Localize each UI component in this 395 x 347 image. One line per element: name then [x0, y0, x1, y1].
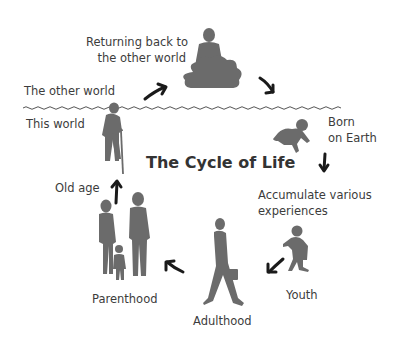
meditating-person-on-cloud-icon: [183, 28, 241, 88]
world-boundary-wave: [23, 107, 341, 110]
label-this-world: This world: [26, 116, 85, 132]
cycle-of-life-diagram: The other world This world Returning bac…: [0, 0, 395, 347]
walking-businessman-icon: [203, 218, 244, 306]
label-returning-line1: Returning back to: [86, 34, 186, 50]
walking-child-icon: [283, 226, 309, 273]
diagram-graphics: [0, 0, 395, 347]
elderly-with-cane-icon: [102, 103, 123, 175]
label-returning: Returning back to the other world: [86, 34, 186, 66]
label-born-line2: on Earth: [328, 130, 377, 146]
arrow-returning-to-born: [260, 78, 273, 93]
label-youth: Youth: [286, 287, 318, 303]
arrow-youth-to-adulthood: [268, 259, 283, 272]
label-returning-line2: the other world: [86, 50, 186, 66]
label-accumulate: Accumulate various experiences: [258, 187, 372, 219]
label-other-world: The other world: [24, 83, 115, 99]
arrow-born-to-accumulate: [320, 154, 328, 171]
label-accumulate-line2: experiences: [258, 203, 372, 219]
label-born-line1: Born: [328, 114, 377, 130]
arrow-parenthood-to-old-age: [112, 181, 121, 203]
label-old-age: Old age: [55, 180, 100, 196]
family-icon: [99, 192, 150, 280]
label-born: Born on Earth: [328, 114, 377, 146]
diagram-title: The Cycle of Life: [146, 153, 295, 172]
arrow-adulthood-to-parenthood: [166, 261, 183, 272]
crawling-baby-icon: [273, 119, 310, 153]
arrow-old-age-to-returning: [145, 84, 166, 99]
label-adulthood: Adulthood: [193, 313, 252, 329]
label-accumulate-line1: Accumulate various: [258, 187, 372, 203]
label-parenthood: Parenthood: [92, 291, 157, 307]
